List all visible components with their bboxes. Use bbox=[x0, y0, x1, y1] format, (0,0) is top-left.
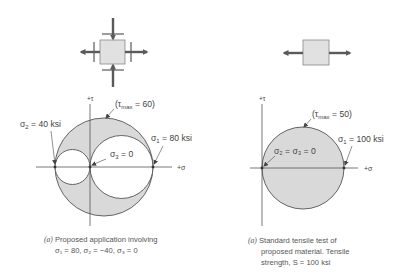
axis-label-sigma: +σ bbox=[177, 164, 186, 171]
sigma1-label: σ1 = 100 ksi bbox=[338, 134, 384, 145]
right-stress-element bbox=[284, 40, 350, 65]
sigma2-leader bbox=[51, 131, 55, 164]
tau-max-leader bbox=[106, 109, 114, 118]
sigma1-leader bbox=[154, 146, 163, 164]
tau-max-label: (τmax = 60) bbox=[115, 99, 155, 110]
right-caption-line1: (a) Standard tensile test of bbox=[248, 236, 338, 245]
stress-square bbox=[303, 40, 329, 65]
point-sigma1 bbox=[152, 166, 155, 169]
left-caption-line2: σ₁ = 80, σ₂ = −40, σ₃ = 0 bbox=[55, 246, 138, 255]
left-mohr-diagram: +τ +σ (τmax = 60) σ2 = 40 ksi σ1 = 80 ks… bbox=[20, 95, 192, 255]
axis-label-tau: +τ bbox=[259, 95, 266, 102]
left-stress-element bbox=[81, 18, 147, 87]
point-sigma3 bbox=[89, 166, 92, 169]
point-sigma2 bbox=[54, 166, 57, 169]
sigma3-label: σ3 = 0 bbox=[110, 149, 133, 160]
sigma23-label: σ₂ = σ₃ = 0 bbox=[274, 146, 316, 156]
sigma1-leader bbox=[345, 146, 352, 165]
point-sigma1 bbox=[343, 167, 346, 170]
right-mohr-diagram: +τ +σ (τmax = 50) σ1 = 100 ksi σ₂ = σ₃ =… bbox=[248, 95, 384, 267]
right-caption-line2: proposed material. Tensile bbox=[261, 247, 350, 256]
axis-label-sigma: +σ bbox=[364, 165, 373, 172]
left-caption-line1: (a) Proposed application involving bbox=[44, 235, 158, 244]
tau-max-leader bbox=[304, 119, 311, 127]
stress-square bbox=[100, 40, 125, 64]
tau-max-label: (τmax = 50) bbox=[312, 109, 352, 120]
right-caption-line3: strength, S = 100 ksi bbox=[261, 258, 331, 267]
diagram-canvas: +τ +σ (τmax = 60) σ2 = 40 ksi σ1 = 80 ks… bbox=[0, 0, 410, 279]
sigma2-label: σ2 = 40 ksi bbox=[20, 119, 61, 130]
axis-label-tau: +τ bbox=[87, 95, 94, 102]
sigma1-label: σ1 = 80 ksi bbox=[151, 133, 192, 144]
point-sigma23 bbox=[261, 167, 264, 170]
